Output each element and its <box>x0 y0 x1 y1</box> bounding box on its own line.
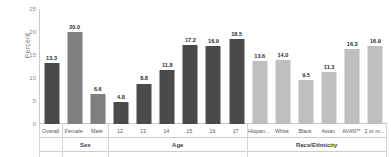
category-tick-label: White <box>270 124 293 137</box>
bar[interactable] <box>345 49 360 124</box>
bar[interactable] <box>160 70 175 124</box>
bar[interactable] <box>252 61 267 124</box>
category-tick-label: 14 <box>155 124 178 137</box>
bar-group[interactable]: 4.8 <box>109 9 132 124</box>
bar-group[interactable]: 13.6 <box>248 9 271 124</box>
group-label <box>39 138 62 151</box>
group-label: Age <box>108 138 247 151</box>
y-axis-tick-label: 10 <box>20 75 36 81</box>
bar[interactable] <box>113 102 128 124</box>
group-divider <box>386 124 387 157</box>
bar-group[interactable]: 14.0 <box>271 9 294 124</box>
y-axis-tick-label: 0 <box>20 121 36 127</box>
bar-group[interactable]: 11.3 <box>318 9 341 124</box>
bar-group[interactable]: 9.5 <box>294 9 317 124</box>
bar-value-label: 17.2 <box>185 38 196 44</box>
y-axis-tick-label: 15 <box>20 52 36 58</box>
bar-value-label: 9.5 <box>302 73 310 79</box>
category-tick-label: Female <box>62 124 85 137</box>
bar-group[interactable]: 8.8 <box>133 9 156 124</box>
bar-value-label: 11.3 <box>324 65 335 71</box>
category-tick-label: 16 <box>201 124 224 137</box>
bar[interactable] <box>275 60 290 124</box>
bar-value-label: 18.5 <box>231 32 242 38</box>
bar-value-label: 6.6 <box>94 87 102 93</box>
group-label: Sex <box>62 138 108 151</box>
bar-value-label: 13.3 <box>46 56 57 62</box>
category-tick-label: Overall <box>39 124 62 137</box>
bar[interactable] <box>137 84 152 124</box>
bar-value-label: 4.8 <box>117 95 125 101</box>
bar[interactable] <box>299 80 314 124</box>
bar[interactable] <box>44 63 59 124</box>
bar-value-label: 14.0 <box>277 53 288 59</box>
group-label: Race/Ethnicity <box>247 138 386 151</box>
bar-group[interactable]: 16.9 <box>364 9 387 124</box>
bar[interactable] <box>229 39 244 124</box>
bar[interactable] <box>206 46 221 124</box>
category-tick-label: 17 <box>224 124 247 137</box>
bar-chart: Percent 0510152025 13.320.06.64.88.811.8… <box>0 0 391 157</box>
category-tick-label: Black <box>293 124 316 137</box>
group-divider <box>108 124 109 157</box>
bar[interactable] <box>67 32 82 124</box>
bar[interactable] <box>183 45 198 124</box>
category-tick-label: 12 <box>108 124 131 137</box>
bar-group[interactable]: 18.5 <box>225 9 248 124</box>
bar-group[interactable]: 16.9 <box>202 9 225 124</box>
category-tick-label: Male <box>85 124 108 137</box>
group-divider <box>247 124 248 157</box>
y-axis-tick-label: 5 <box>20 98 36 104</box>
bar-value-label: 20.0 <box>69 25 80 31</box>
category-tick-label: 13 <box>132 124 155 137</box>
bar-value-label: 16.9 <box>370 39 381 45</box>
group-divider <box>62 124 63 157</box>
bar[interactable] <box>368 46 383 124</box>
y-axis-tick-labels: 0510152025 <box>20 0 36 130</box>
bar-group[interactable]: 20.0 <box>63 9 86 124</box>
y-axis-tick-label: 25 <box>20 6 36 12</box>
bars-layer: 13.320.06.64.88.811.817.216.918.513.614.… <box>40 9 387 124</box>
bar[interactable] <box>90 94 105 124</box>
category-tick-label: Asian <box>317 124 340 137</box>
bar-value-label: 13.6 <box>254 54 265 60</box>
bar-value-label: 8.8 <box>140 76 148 82</box>
bar-group[interactable]: 6.6 <box>86 9 109 124</box>
category-tick-label: 15 <box>178 124 201 137</box>
category-tick-label: 2 or m... <box>363 124 386 137</box>
bar-group[interactable]: 13.3 <box>40 9 63 124</box>
bar-value-label: 16.9 <box>208 39 219 45</box>
group-divider <box>39 124 40 157</box>
y-axis-tick-label: 20 <box>20 29 36 35</box>
category-tick-label: AI/AN** <box>340 124 363 137</box>
group-axis: SexAgeRace/Ethnicity <box>39 138 387 152</box>
category-tick-label: Hispan... <box>247 124 270 137</box>
bar[interactable] <box>322 72 337 124</box>
bar-group[interactable]: 17.2 <box>179 9 202 124</box>
bar-group[interactable]: 16.3 <box>341 9 364 124</box>
category-axis: OverallFemaleMale121314151617Hispan...Wh… <box>39 124 387 138</box>
bar-value-label: 11.8 <box>162 63 173 69</box>
bar-value-label: 16.3 <box>347 42 358 48</box>
bar-group[interactable]: 11.8 <box>156 9 179 124</box>
